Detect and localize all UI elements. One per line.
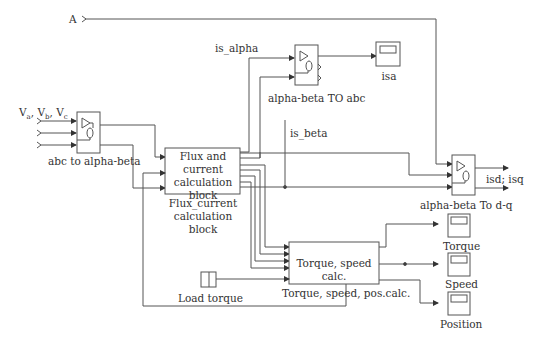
- scope-position-label: Position: [440, 318, 482, 330]
- voltage-input-label: Va, Vb, Vc: [19, 106, 68, 123]
- diagram-canvas: [0, 0, 535, 342]
- torque-block-label: Torque, speed, pos.calc.: [282, 287, 410, 299]
- torque-block-inner-text: Torque, speed calc.: [289, 257, 379, 283]
- scope-isa-label: isa: [378, 70, 400, 82]
- isd-isq-label: isd; isq: [486, 173, 524, 185]
- input-a-label: A: [69, 13, 77, 25]
- flux-block-inner-text: Flux and current calculation block: [165, 150, 241, 202]
- abc-to-alpha-beta-label: abc to alpha-beta: [48, 155, 140, 167]
- scope-speed-label: Speed: [445, 278, 478, 290]
- is-beta-label: is_beta: [290, 127, 327, 139]
- wire-a-input: [82, 16, 452, 164]
- alpha-beta-to-abc-label: alpha-beta TO abc: [268, 92, 365, 104]
- is-alpha-label: is_alpha: [215, 42, 258, 54]
- flux-block-label: Flux_current calculation block: [165, 197, 241, 236]
- scope-torque-label: Torque: [443, 240, 480, 252]
- alpha-beta-to-dq-label: alpha-beta To d-q: [420, 199, 513, 211]
- load-torque-label: Load torque: [178, 292, 243, 304]
